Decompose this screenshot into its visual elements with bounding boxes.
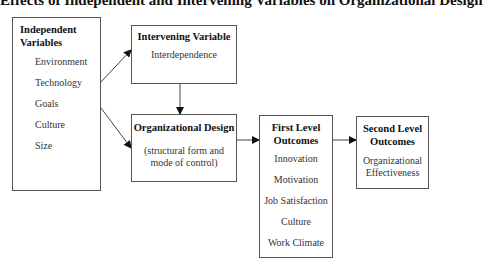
second-level-heading-line2: Outcomes	[357, 135, 428, 148]
list-item: Goals	[35, 98, 100, 119]
second-level-outcomes-box: Second Level Outcomes Organizational Eff…	[356, 116, 429, 189]
list-item: Motivation	[260, 174, 332, 195]
list-item: Technology	[35, 77, 100, 98]
list-item: Culture	[35, 119, 100, 140]
arrow-independent-to-org-design	[101, 108, 131, 148]
independent-heading-line2: Variables	[20, 36, 100, 49]
list-item: Size	[35, 140, 100, 161]
first-level-outcomes-box: First Level Outcomes Innovation Motivati…	[259, 115, 333, 258]
intervening-heading: Intervening Variable	[132, 30, 236, 43]
org-design-sub-line1: (structural form and	[132, 145, 236, 157]
second-level-heading-line1: Second Level	[357, 122, 428, 135]
first-level-outcomes-list: Innovation Motivation Job Satisfaction C…	[260, 153, 332, 258]
independent-heading-line1: Independent	[20, 23, 100, 36]
independent-variables-list: Environment Technology Goals Culture Siz…	[20, 56, 100, 161]
org-design-sub-line2: mode of control)	[132, 157, 236, 169]
first-level-heading-line1: First Level	[260, 121, 332, 134]
independent-variables-box: Independent Variables Environment Techno…	[12, 17, 101, 191]
list-item: Environment	[35, 56, 100, 77]
arrow-independent-to-intervening	[101, 50, 131, 82]
org-design-heading: Organizational Design	[132, 121, 236, 134]
intervening-variable-box: Intervening Variable Interdependence	[131, 25, 237, 84]
list-item: Work Climate	[260, 237, 332, 258]
first-level-heading-line2: Outcomes	[260, 134, 332, 147]
second-level-item-line2: Effectiveness	[357, 167, 428, 179]
list-item: Job Satisfaction	[260, 195, 332, 216]
list-item: Innovation	[260, 153, 332, 174]
list-item: Culture	[260, 216, 332, 237]
second-level-item-line1: Organizational	[357, 155, 428, 167]
list-item: Interdependence	[132, 49, 236, 61]
organizational-design-box: Organizational Design (structural form a…	[131, 114, 237, 182]
